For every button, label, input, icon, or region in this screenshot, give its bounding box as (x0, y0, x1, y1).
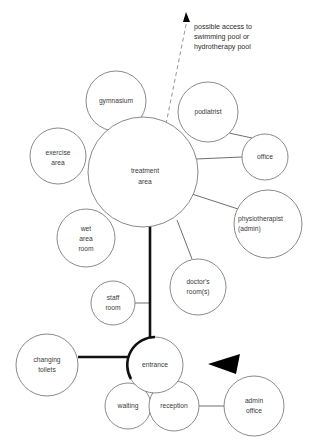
staff-room-label-line1: staff (107, 294, 120, 301)
gymnasium-label: gymnasium (99, 97, 134, 105)
doctors-rooms-label-line2: room(s) (186, 288, 209, 296)
link-podiatrist-to-office (229, 133, 252, 138)
wet-area-room-label-line3: room (78, 245, 94, 252)
podiatrist-label: podiatrist (194, 108, 221, 116)
changing-toilets-label-line1: changing (33, 356, 60, 364)
exercise-area-label-line2: area (51, 159, 65, 166)
changing-toilets-label-line2: toilets (38, 366, 56, 373)
annotation-line3: hydrotherapy pool (194, 43, 251, 51)
exercise-area-label-line1: exercise (46, 149, 71, 156)
reception-label: reception (160, 402, 188, 410)
node-doctors-rooms[interactable]: doctor's room(s) (170, 259, 226, 315)
admin-office-label-line2: office (246, 407, 262, 414)
annotation-line2: swimming pool or (194, 33, 250, 41)
node-podiatrist[interactable]: podiatrist (178, 82, 238, 142)
node-staff-room[interactable]: staff room (91, 281, 135, 325)
staff-room-label-line2: room (105, 304, 121, 311)
annotation-line1: possible access to (194, 23, 252, 31)
physiotherapist-admin-label-line2: (admin) (238, 225, 261, 233)
node-office[interactable]: office (242, 134, 288, 180)
node-layer: gymnasium podiatrist exercise area offic… (16, 71, 302, 436)
admin-office-label-line1: admin (245, 397, 263, 404)
pool-annotation: possible access to swimming pool or hydr… (183, 12, 252, 51)
waiting-label: waiting (117, 402, 139, 410)
bubble-diagram: gymnasium podiatrist exercise area offic… (0, 0, 320, 446)
node-physiotherapist-admin[interactable]: physiotherapist (admin) (234, 190, 302, 258)
link-treatment-to-physiotherapist (192, 194, 238, 209)
doctors-rooms-label-line1: doctor's (186, 278, 210, 285)
exercise-area-circle[interactable] (30, 128, 86, 184)
treatment-area-label-line2: area (138, 178, 152, 185)
node-wet-area-room[interactable]: wet area room (57, 209, 115, 267)
main-entry-arrow (208, 354, 240, 374)
bubble-diagram-container: gymnasium podiatrist exercise area offic… (0, 0, 320, 446)
node-exercise-area[interactable]: exercise area (30, 128, 86, 184)
wet-area-room-label-line1: wet (80, 225, 92, 232)
arrow-left-icon (208, 354, 240, 374)
entrance-label: entrance (142, 361, 168, 368)
node-entrance[interactable]: entrance (127, 337, 183, 393)
wet-area-room-label-line2: area (79, 235, 93, 242)
link-treatment-to-office (196, 157, 242, 159)
link-treatment-to-doctors-rooms (177, 220, 192, 259)
node-treatment-area[interactable]: treatment area (88, 117, 198, 227)
annotation-arrowhead-icon (183, 12, 190, 22)
treatment-area-label-line1: treatment (131, 167, 159, 174)
node-admin-office[interactable]: admin office (224, 376, 284, 436)
node-changing-toilets[interactable]: changing toilets (16, 334, 78, 396)
office-label: office (257, 153, 273, 160)
physiotherapist-admin-label-line1: physiotherapist (238, 215, 283, 223)
